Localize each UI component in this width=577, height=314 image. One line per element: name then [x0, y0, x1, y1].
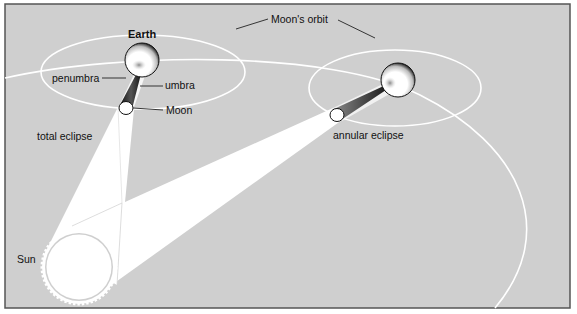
label-annular-eclipse: annular eclipse — [333, 129, 404, 141]
label-penumbra: penumbra — [52, 72, 99, 84]
earth-right — [381, 63, 415, 97]
earth-left — [125, 43, 159, 77]
label-moons-orbit: Moon's orbit — [271, 13, 328, 25]
label-earth: Earth — [128, 28, 156, 40]
moon-left — [119, 102, 133, 115]
moon-right — [330, 109, 344, 122]
label-moon: Moon — [166, 104, 192, 116]
sun — [42, 230, 116, 304]
label-sun: Sun — [17, 253, 36, 265]
eclipse-diagram: Earth Moon's orbit penumbra umbra Moon t… — [0, 0, 577, 314]
label-umbra: umbra — [165, 79, 195, 91]
label-total-eclipse: total eclipse — [37, 130, 93, 142]
